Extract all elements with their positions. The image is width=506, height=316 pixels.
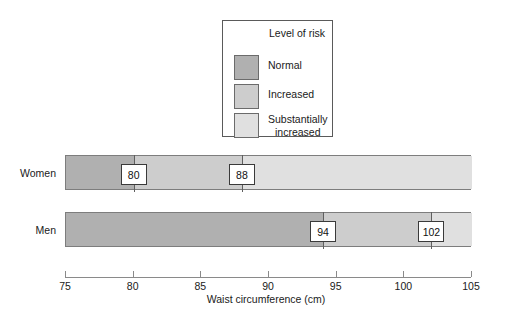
bar-segment-increased bbox=[323, 213, 431, 246]
x-axis-tick-label: 105 bbox=[451, 280, 491, 292]
legend-label-normal: Normal bbox=[268, 55, 302, 72]
x-axis-tick-label: 100 bbox=[383, 280, 423, 292]
x-axis-tick bbox=[65, 271, 66, 277]
x-axis-tick bbox=[133, 271, 134, 277]
x-axis-tick-label: 75 bbox=[45, 280, 85, 292]
row-label-women: Women bbox=[0, 167, 56, 179]
bar-segment-increased bbox=[134, 156, 242, 189]
legend-label-line2: increased bbox=[275, 126, 328, 139]
legend-label-substantially-increased: Substantiallyincreased bbox=[268, 113, 328, 138]
threshold-value-box: 80 bbox=[121, 164, 147, 185]
legend-swatch-substantially-increased bbox=[234, 113, 259, 138]
x-axis-tick bbox=[336, 271, 337, 277]
x-axis-tick-label: 80 bbox=[113, 280, 153, 292]
x-axis-title-text: Waist circumference (cm) bbox=[207, 293, 326, 305]
bar-men: 94102 bbox=[65, 212, 471, 247]
x-axis-tick-label: 95 bbox=[316, 280, 356, 292]
x-axis-tick-label: 90 bbox=[248, 280, 288, 292]
x-axis-tick bbox=[403, 271, 404, 277]
legend-title: Level of risk bbox=[269, 27, 325, 39]
legend-swatch-normal bbox=[234, 55, 259, 80]
legend-item-substantially-increased: Substantiallyincreased bbox=[234, 113, 330, 139]
x-axis-line bbox=[65, 277, 471, 278]
threshold-value-box: 102 bbox=[418, 221, 444, 242]
legend-swatch-increased bbox=[234, 84, 259, 109]
x-axis-tick bbox=[471, 271, 472, 277]
row-label-men: Men bbox=[0, 224, 56, 236]
x-axis-tick bbox=[268, 271, 269, 277]
legend: Level of risk Normal Increased Substanti… bbox=[222, 20, 333, 137]
legend-label-increased: Increased bbox=[268, 84, 314, 101]
chart-figure: Level of risk Normal Increased Substanti… bbox=[0, 0, 506, 316]
bar-segment-substantially_increased bbox=[242, 156, 472, 189]
threshold-value-box: 94 bbox=[310, 221, 336, 242]
legend-item-normal: Normal bbox=[234, 55, 330, 81]
threshold-value-box: 88 bbox=[229, 164, 255, 185]
x-axis-title: Waist circumference (cm) bbox=[0, 293, 506, 305]
plot-area: 8088 94102 bbox=[65, 150, 471, 270]
bar-women: 8088 bbox=[65, 155, 471, 190]
legend-item-increased: Increased bbox=[234, 84, 330, 110]
bar-segment-normal bbox=[66, 213, 323, 246]
x-axis-tick-label: 85 bbox=[180, 280, 220, 292]
legend-label-line1: Substantially bbox=[268, 113, 328, 125]
x-axis-tick bbox=[200, 271, 201, 277]
